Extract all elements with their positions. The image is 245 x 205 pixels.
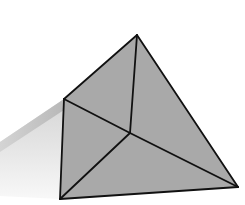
diagram-canvas — [0, 0, 245, 205]
cast-shadow — [0, 99, 64, 199]
tetrahedron-diagram — [0, 0, 245, 205]
